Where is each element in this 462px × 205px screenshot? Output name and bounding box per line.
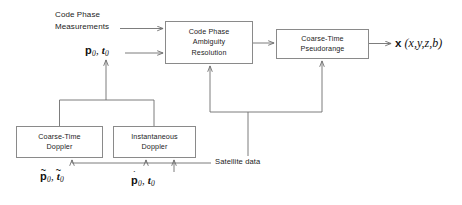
subscript-0: 0 bbox=[105, 49, 109, 58]
symbol-p-glyph: p bbox=[85, 44, 92, 56]
box-coarse-time-pseudorange[interactable]: Coarse-Time Pseudorange bbox=[276, 29, 369, 59]
box-instantaneous-doppler[interactable]: Instantaneous Doppler bbox=[113, 126, 196, 158]
box-label-line: Ambiguity bbox=[193, 37, 225, 47]
box-label-line: Resolution bbox=[192, 48, 227, 58]
accent-dot: ˙ bbox=[133, 171, 136, 179]
connector-doppler-bracket bbox=[60, 100, 155, 126]
box-label-line: Doppler bbox=[47, 142, 73, 152]
label-line: Satellite data bbox=[215, 156, 260, 167]
symbol-p: ˙p bbox=[131, 174, 138, 186]
separator-comma: , bbox=[142, 174, 145, 186]
label-output-vector: x (x,y,z,b) bbox=[395, 36, 442, 51]
box-label-line: Coarse-Time bbox=[301, 34, 343, 44]
box-label-line: Doppler bbox=[142, 142, 168, 152]
subscript-0: 0 bbox=[151, 179, 155, 188]
box-code-phase-ambiguity-resolution[interactable]: Code Phase Ambiguity Resolution bbox=[165, 21, 253, 64]
subscript-0: 0 bbox=[60, 175, 64, 184]
box-label-line: Pseudorange bbox=[301, 44, 345, 54]
separator-comma: , bbox=[51, 170, 54, 182]
symbol-p: ~p bbox=[40, 170, 47, 182]
output-vector-components: (x,y,z,b) bbox=[405, 36, 443, 50]
label-pdot0-t0: ˙p0, t0 bbox=[131, 174, 155, 186]
subscript-0: 0 bbox=[138, 179, 142, 188]
label-p0-t0-input: p0, t0 bbox=[85, 44, 109, 56]
separator-comma: , bbox=[96, 44, 99, 56]
accent-tilde: ~ bbox=[41, 166, 46, 175]
box-label-line: Instantaneous bbox=[131, 132, 177, 142]
symbol-p: p bbox=[85, 44, 92, 56]
box-coarse-time-doppler[interactable]: Coarse-Time Doppler bbox=[16, 126, 103, 158]
accent-tilde: ~ bbox=[56, 166, 61, 175]
subscript-0: 0 bbox=[47, 175, 51, 184]
box-label-line: Coarse-Time bbox=[38, 132, 80, 142]
label-p0-t0-tilde: ~p0, ~t0 bbox=[40, 170, 64, 182]
box-label-line: Code Phase bbox=[189, 27, 230, 37]
label-line: Code Phase bbox=[55, 9, 109, 21]
label-code-phase-measurements: Code Phase Measurements bbox=[55, 9, 109, 32]
label-line: Measurements bbox=[55, 21, 109, 33]
block-diagram-canvas: Code Phase Ambiguity Resolution Coarse-T… bbox=[0, 0, 462, 205]
subscript-0: 0 bbox=[92, 49, 96, 58]
label-satellite-data: Satellite data bbox=[215, 156, 260, 167]
